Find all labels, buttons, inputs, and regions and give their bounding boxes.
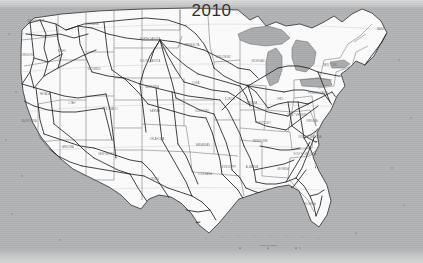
scale-bar-label: 0 200 400 Miles: [260, 244, 278, 247]
state-label: TENNESSEE: [252, 139, 268, 143]
state-label: INDIANA: [247, 101, 258, 105]
state-label: COLORADO: [103, 107, 118, 111]
state-label: SOUTH CAROLINA: [293, 152, 316, 156]
map-figure: WASHINGTONOREGONIDAHOMONTANAWYOMINGNEVAD…: [0, 0, 423, 263]
state-label: OKLAHOMA: [150, 137, 165, 141]
state-label: ILLINOIS: [225, 97, 236, 101]
state-label: PENNSYLVANIA: [308, 91, 328, 95]
ocean-tick-marks: [205, 235, 318, 238]
state-label: NEBRASKA: [145, 85, 159, 89]
state-label: SOUTH DAKOTA: [140, 59, 161, 63]
land-outline: [21, 8, 387, 233]
state-label: FLORIDA: [304, 202, 316, 206]
state-label: IOWA: [193, 81, 200, 85]
state-label: NEW MEXICO: [98, 152, 115, 156]
map-title: 2010: [0, 1, 423, 21]
state-label: LOUISIANA: [198, 172, 212, 176]
state-label: MINNESOTA: [184, 43, 199, 47]
state-label: ARIZONA: [62, 145, 74, 149]
state-label: MAINE: [377, 27, 385, 31]
map-svg: WASHINGTONOREGONIDAHOMONTANAWYOMINGNEVAD…: [0, 0, 423, 263]
state-label: WYOMING: [88, 67, 101, 71]
state-label: WISCONSIN: [216, 55, 231, 59]
state-label: MICHIGAN: [252, 59, 265, 63]
state-label: NORTH DAKOTA: [140, 37, 161, 41]
state-label: OHIO: [277, 97, 284, 101]
state-label: WEST VIRGINIA: [287, 113, 307, 117]
state-label: MONTANA: [86, 22, 99, 26]
state-label: TEXAS: [151, 177, 160, 181]
state-label: NEW YORK: [323, 63, 337, 67]
state-label: ALABAMA: [246, 165, 259, 169]
scale-bar: 0 200 400 Miles: [240, 244, 296, 253]
us-map-canvas: WASHINGTONOREGONIDAHOMONTANAWYOMINGNEVAD…: [0, 0, 423, 263]
state-label: IDAHO: [58, 49, 66, 53]
state-label: KANSAS: [150, 109, 161, 113]
state-label: GEORGIA: [277, 167, 289, 171]
state-label: CALIFORNIA: [21, 119, 37, 123]
state-label: NEVADA: [40, 92, 51, 96]
state-label: MISSISSIPPI: [220, 165, 236, 169]
state-label: MISSOURI: [196, 109, 209, 113]
state-label: UTAH: [69, 101, 76, 105]
state-label: OREGON: [21, 53, 33, 57]
state-label: VIRGINIA: [306, 119, 318, 123]
state-label: ARKANSAS: [196, 143, 210, 147]
state-label: NORTH CAROLINA: [298, 135, 321, 139]
state-label: KENTUCKY: [257, 121, 271, 125]
